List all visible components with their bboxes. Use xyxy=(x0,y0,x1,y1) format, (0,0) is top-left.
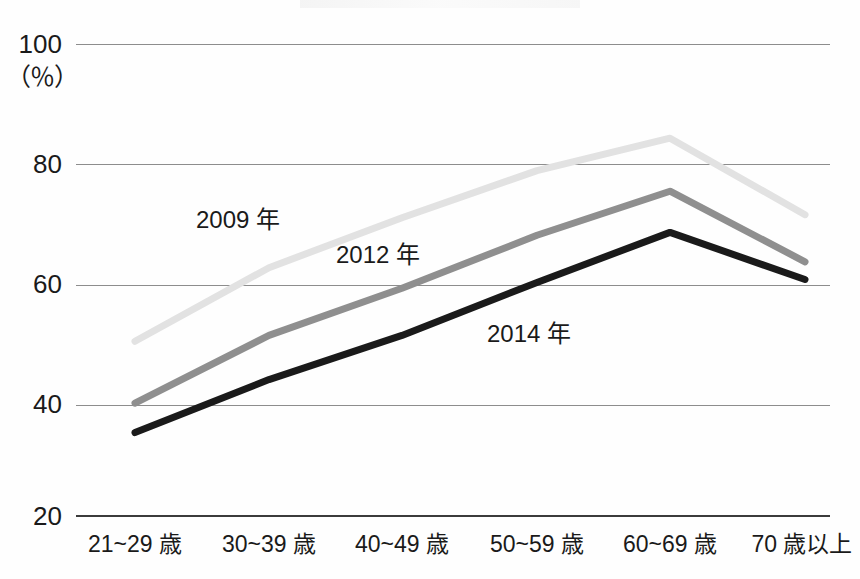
series-annotation-2009: 2009 年 xyxy=(196,207,280,233)
x-tick-label-4: 60~69 歳 xyxy=(623,531,717,557)
line-chart: （％） 100 80 60 40 20 2009 年 2012 年 2014 年… xyxy=(0,0,860,579)
plot-area xyxy=(0,0,860,579)
x-tick-label-3: 50~59 歳 xyxy=(490,531,584,557)
series-annotation-2012: 2012 年 xyxy=(336,242,420,268)
x-tick-label-0: 21~29 歳 xyxy=(88,531,182,557)
x-tick-label-5: 70 歳以上 xyxy=(752,531,853,557)
series-annotation-2014: 2014 年 xyxy=(487,321,571,347)
x-tick-label-1: 30~39 歳 xyxy=(222,531,316,557)
x-tick-label-2: 40~49 歳 xyxy=(355,531,449,557)
